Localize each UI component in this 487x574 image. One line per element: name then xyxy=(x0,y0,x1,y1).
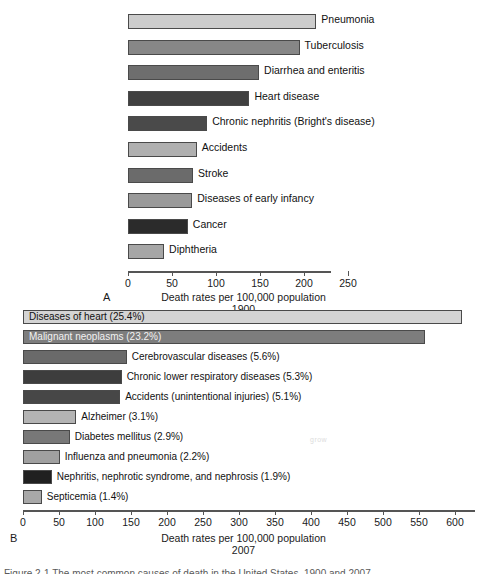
x-axis-tick-label-2007: 500 xyxy=(374,516,392,528)
x-axis-tick-2007 xyxy=(419,510,420,515)
x-axis-title-2007: Death rates per 100,000 population 2007 xyxy=(0,532,487,556)
bar-label-1900: Pneumonia xyxy=(321,12,374,27)
bar-label-1900: Accidents xyxy=(202,140,248,155)
bar-2007 xyxy=(23,470,52,484)
x-axis-tick-2007 xyxy=(167,510,168,515)
bar-label-2007: Nephritis, nephrotic syndrome, and nephr… xyxy=(57,470,290,484)
bar-chart-1900-plot-area: PneumoniaTuberculosisDiarrhea and enteri… xyxy=(128,14,328,271)
bar-label-1900: Stroke xyxy=(198,166,228,181)
panel-letter-a: A xyxy=(103,291,110,303)
x-axis-line-2007 xyxy=(23,510,475,512)
x-axis-tick-label-2007: 350 xyxy=(266,516,284,528)
x-axis-tick-label-2007: 200 xyxy=(158,516,176,528)
x-axis-tick-2007 xyxy=(275,510,276,515)
bar-label-2007: Accidents (unintentional injuries) (5.1%… xyxy=(125,390,301,404)
bar-label-2007: Cerebrovascular diseases (5.6%) xyxy=(132,350,280,364)
x-axis-tick-1900 xyxy=(128,271,129,276)
x-axis-year-2007: 2007 xyxy=(0,544,487,556)
bar-label-1900: Diseases of early infancy xyxy=(197,191,314,206)
bar-1900 xyxy=(128,91,249,106)
x-axis-tick-label-2007: 100 xyxy=(86,516,104,528)
x-axis-tick-1900 xyxy=(172,271,173,276)
x-axis-tick-2007 xyxy=(23,510,24,515)
x-axis-tick-2007 xyxy=(311,510,312,515)
x-axis-tick-2007 xyxy=(239,510,240,515)
x-axis-tick-label-1900: 100 xyxy=(207,277,225,289)
x-axis-tick-label-1900: 0 xyxy=(125,277,131,289)
bar-2007 xyxy=(23,450,60,464)
bar-chart-2007-plot-area: Diseases of heart (25.4%)Malignant neopl… xyxy=(23,310,473,510)
bar-label-1900: Tuberculosis xyxy=(305,38,364,53)
figure-caption: Figure 2-1 The most common causes of dea… xyxy=(4,568,484,574)
x-axis-tick-2007 xyxy=(59,510,60,515)
x-axis-tick-label-2007: 250 xyxy=(194,516,212,528)
bar-1900 xyxy=(128,168,193,183)
bar-label-1900: Heart disease xyxy=(254,89,319,104)
x-axis-tick-2007 xyxy=(455,510,456,515)
x-axis-tick-label-1900: 200 xyxy=(295,277,313,289)
x-axis-tick-1900 xyxy=(260,271,261,276)
bar-label-1900: Chronic nephritis (Bright's disease) xyxy=(212,114,375,129)
x-axis-tick-1900 xyxy=(348,271,349,276)
panel-a-chart-1900: PneumoniaTuberculosisDiarrhea and enteri… xyxy=(0,0,487,290)
x-axis-tick-1900 xyxy=(216,271,217,276)
bar-label-1900: Diphtheria xyxy=(169,242,217,257)
bar-2007 xyxy=(23,410,76,424)
x-axis-line-1900 xyxy=(128,271,331,273)
x-axis-tick-label-2007: 150 xyxy=(122,516,140,528)
x-axis-tick-2007 xyxy=(95,510,96,515)
x-axis-tick-label-2007: 50 xyxy=(53,516,65,528)
x-axis-tick-label-2007: 550 xyxy=(410,516,428,528)
panel-b-chart-2007: Diseases of heart (25.4%)Malignant neopl… xyxy=(0,306,487,574)
x-axis-tick-label-2007: 0 xyxy=(20,516,26,528)
x-axis-tick-label-1900: 250 xyxy=(339,277,357,289)
x-axis-tick-2007 xyxy=(347,510,348,515)
bar-2007 xyxy=(23,430,70,444)
bar-2007 xyxy=(23,490,42,504)
x-axis-tick-label-2007: 300 xyxy=(230,516,248,528)
bar-label-1900: Diarrhea and enteritis xyxy=(264,63,364,78)
x-axis-tick-2007 xyxy=(131,510,132,515)
bar-2007 xyxy=(23,390,120,404)
x-axis-tick-label-1900: 50 xyxy=(166,277,178,289)
bar-1900 xyxy=(128,40,300,55)
bar-label-2007: Diabetes mellitus (2.9%) xyxy=(75,430,183,444)
bar-1900 xyxy=(128,14,316,29)
bar-label-2007: Chronic lower respiratory diseases (5.3%… xyxy=(127,370,313,384)
bar-2007 xyxy=(23,350,127,364)
bar-1900 xyxy=(128,244,164,259)
bar-label-2007: Malignant neoplasms (23.2%) xyxy=(29,330,161,344)
bar-1900 xyxy=(128,65,259,80)
bar-label-2007: Septicemia (1.4%) xyxy=(47,490,129,504)
x-axis-title-2007-text: Death rates per 100,000 population xyxy=(161,532,326,544)
bar-label-2007: Diseases of heart (25.4%) xyxy=(29,310,145,324)
bar-label-2007: Influenza and pneumonia (2.2%) xyxy=(65,450,210,464)
x-axis-tick-label-2007: 600 xyxy=(446,516,464,528)
bar-label-1900: Cancer xyxy=(193,217,227,232)
bar-1900 xyxy=(128,142,197,157)
panel-letter-b: B xyxy=(10,532,17,544)
x-axis-tick-1900 xyxy=(304,271,305,276)
bar-1900 xyxy=(128,219,188,234)
x-axis-title-1900-text: Death rates per 100,000 population xyxy=(161,291,326,303)
bar-2007 xyxy=(23,370,122,384)
x-axis-tick-label-1900: 150 xyxy=(251,277,269,289)
bar-label-2007: Alzheimer (3.1%) xyxy=(81,410,158,424)
x-axis-tick-label-2007: 400 xyxy=(302,516,320,528)
bar-1900 xyxy=(128,193,192,208)
x-axis-tick-2007 xyxy=(383,510,384,515)
bar-1900 xyxy=(128,116,207,131)
x-axis-tick-label-2007: 450 xyxy=(338,516,356,528)
x-axis-tick-2007 xyxy=(203,510,204,515)
